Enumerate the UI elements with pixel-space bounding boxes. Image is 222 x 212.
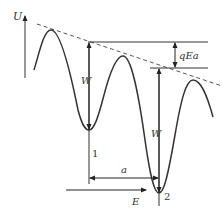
barrier-label-2: W: [151, 128, 162, 139]
barrier-label-1: W: [81, 75, 92, 86]
qea-label: qEa: [179, 50, 199, 61]
field-label: E: [131, 196, 140, 207]
potential-diagram: U qEa W W 1 2 a E: [0, 0, 222, 212]
site-1-label: 1: [92, 148, 98, 159]
distance-label: a: [121, 164, 127, 175]
barrier-arrow-2: W: [151, 69, 162, 193]
site-2-label: 2: [164, 191, 170, 202]
u-axis-label: U: [13, 10, 23, 23]
barrier-arrow-1: W: [81, 43, 92, 130]
distance-arrow: a: [90, 164, 158, 178]
u-axis: U: [13, 10, 25, 78]
field-arrow: E: [66, 190, 146, 207]
qea-arrow: qEa: [175, 43, 199, 67]
